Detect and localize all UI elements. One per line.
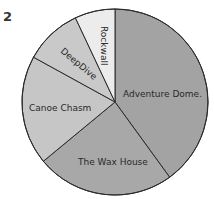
label-canoe-chasm: Canoe Chasm: [29, 103, 91, 113]
label-rockwall: Rockwall: [99, 26, 109, 65]
pie-chart: Adventure Dome. The Wax House Canoe Chas…: [0, 0, 214, 199]
pie-slices: [22, 9, 208, 195]
label-wax-house: The Wax House: [77, 157, 148, 167]
label-adventure-dome: Adventure Dome.: [123, 89, 202, 99]
